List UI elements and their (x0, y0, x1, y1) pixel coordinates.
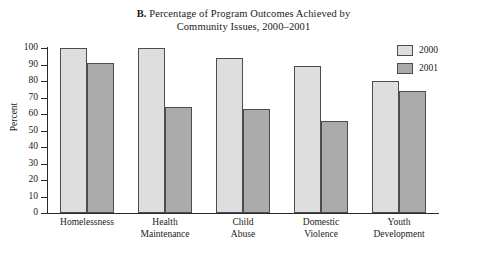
y-axis-tick (41, 65, 47, 66)
y-axis-tick (41, 98, 47, 99)
x-axis-line (47, 213, 439, 214)
bar[interactable] (165, 107, 192, 213)
bar[interactable] (399, 91, 426, 213)
y-axis-tick (41, 48, 47, 49)
y-axis-tick-label: 20 (0, 175, 38, 185)
y-axis-tick (41, 147, 47, 148)
x-axis-category-label-line: Violence (282, 228, 360, 240)
chart-title-line-1-text: Percentage of Program Outcomes Achieved … (147, 8, 351, 19)
legend-item[interactable]: 2000 (397, 44, 438, 57)
y-axis-tick (41, 114, 47, 115)
bar-group (216, 48, 270, 213)
x-axis-category-label-line: Health (126, 216, 204, 228)
y-axis-tick-label: 100 (0, 43, 38, 53)
x-axis-category-label: ChildAbuse (204, 216, 282, 240)
bar-group (60, 48, 114, 213)
x-axis-category-label-line: Domestic (282, 216, 360, 228)
bar-group (294, 48, 348, 213)
y-axis-tick (41, 197, 47, 198)
legend-item[interactable]: 2001 (397, 62, 438, 75)
bar[interactable] (216, 58, 243, 213)
bar-group (138, 48, 192, 213)
legend-swatch (397, 45, 413, 56)
bar[interactable] (138, 48, 165, 213)
bar[interactable] (372, 81, 399, 213)
y-axis-tick-label: 40 (0, 142, 38, 152)
y-axis-tick-label: 30 (0, 159, 38, 169)
bar[interactable] (321, 121, 348, 213)
bar[interactable] (87, 63, 114, 213)
x-axis-category-label: DomesticViolence (282, 216, 360, 240)
y-axis-tick-label: 70 (0, 93, 38, 103)
y-axis-tick (41, 164, 47, 165)
plot-area (48, 48, 438, 213)
x-axis-category-label: HealthMaintenance (126, 216, 204, 240)
y-axis-tick-label: 60 (0, 109, 38, 119)
y-axis-tick-label: 0 (0, 208, 38, 218)
chart-title-line-2: Community Issues, 2000–2001 (0, 20, 487, 33)
x-axis-category-label-line: Child (204, 216, 282, 228)
legend-label: 2001 (419, 63, 438, 74)
y-axis-tick (41, 81, 47, 82)
bar[interactable] (243, 109, 270, 213)
chart-title-line-1: B. Percentage of Program Outcomes Achiev… (0, 7, 487, 20)
x-axis-category-label-line: Homelessness (48, 216, 126, 228)
y-axis-tick (41, 213, 47, 214)
y-axis-tick (41, 180, 47, 181)
y-axis-tick-label: 50 (0, 126, 38, 136)
chart-title: B. Percentage of Program Outcomes Achiev… (0, 7, 487, 33)
legend-swatch (397, 63, 413, 74)
x-axis-category-label-line: Youth (360, 216, 438, 228)
x-axis-category-label-line: Development (360, 228, 438, 240)
chart-legend: 20002001 (397, 44, 438, 80)
x-axis-category-label-line: Maintenance (126, 228, 204, 240)
y-axis-tick-label: 80 (0, 76, 38, 86)
y-axis-tick (41, 131, 47, 132)
x-axis-category-label: YouthDevelopment (360, 216, 438, 240)
y-axis-tick-label: 10 (0, 192, 38, 202)
legend-label: 2000 (419, 45, 438, 56)
y-axis-tick-label: 90 (0, 60, 38, 70)
bar[interactable] (294, 66, 321, 213)
bar[interactable] (60, 48, 87, 213)
x-axis-category-label: Homelessness (48, 216, 126, 228)
x-axis-category-label-line: Abuse (204, 228, 282, 240)
chart-title-prefix: B. (137, 8, 147, 19)
